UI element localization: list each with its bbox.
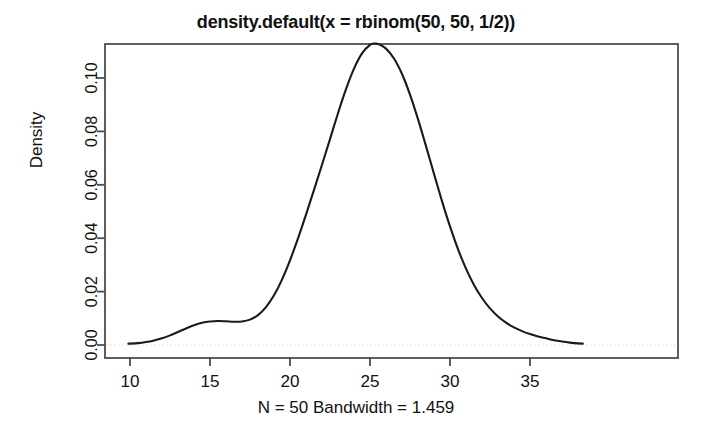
svg-text:0.06: 0.06 [83,169,100,200]
svg-text:0.04: 0.04 [83,223,100,254]
svg-text:30: 30 [441,372,460,391]
svg-text:20: 20 [281,372,300,391]
svg-text:0.10: 0.10 [83,62,100,93]
density-plot-figure: density.default(x = rbinom(50, 50, 1/2))… [0,0,712,445]
svg-text:25: 25 [361,372,380,391]
svg-text:35: 35 [521,372,540,391]
svg-text:15: 15 [201,372,220,391]
density-curve [128,44,582,344]
axis-ticks [97,78,530,366]
svg-text:0.02: 0.02 [83,276,100,307]
svg-text:0.00: 0.00 [83,329,100,360]
svg-text:0.08: 0.08 [83,116,100,147]
plot-caption: N = 50 Bandwidth = 1.459 [0,398,712,418]
axes-frame [105,44,678,358]
plot-canvas: 1015202530350.000.020.040.060.080.10 [0,0,712,445]
svg-text:10: 10 [121,372,140,391]
